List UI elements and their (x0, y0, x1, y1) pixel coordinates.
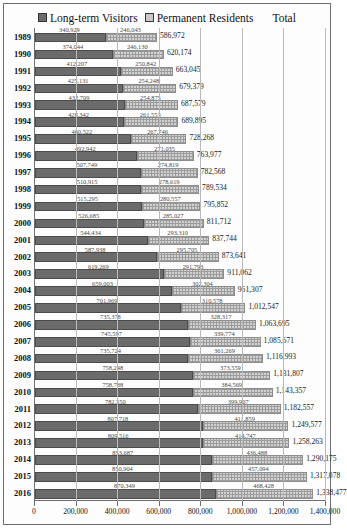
y-axis-category-label: 2014 (4, 454, 31, 464)
stacked-bar (35, 489, 326, 499)
bar-segment-long-term-visitors (35, 371, 193, 381)
bar-segment-long-term-visitors (35, 219, 144, 229)
chart-row: 2015850,904457,0941,317,078 (34, 467, 325, 484)
bar-value-label-permanent-residents: 254,875 (140, 94, 161, 101)
bar-value-label-permanent-residents: 468,428 (253, 482, 274, 489)
chart-row: 2011782,550399,9071,182,557 (34, 400, 325, 417)
bar-segment-long-term-visitors (35, 50, 113, 60)
bar-segment-long-term-visitors (35, 337, 190, 347)
y-axis-category-label: 1998 (4, 184, 31, 194)
bar-segment-long-term-visitors (35, 185, 141, 195)
bar-value-label-permanent-residents: 250,842 (135, 60, 156, 67)
legend-label-total: Total (272, 12, 295, 24)
bar-total-label: 795,852 (203, 200, 228, 209)
bar-value-label-permanent-residents: 328,317 (211, 313, 232, 320)
legend-label-permanent-residents: Permanent Residents (157, 12, 254, 24)
bar-value-label-long-term-visitors: 425,131 (68, 77, 89, 84)
bar-total-label: 663,045 (176, 65, 201, 74)
stacked-bar (35, 151, 326, 161)
bar-value-label-long-term-visitors: 374,044 (62, 43, 83, 50)
bar-segment-permanent-residents (124, 117, 178, 127)
bar-total-label: 1,063,695 (259, 319, 289, 328)
bar-value-label-long-term-visitors: 515,295 (77, 195, 98, 202)
bar-segment-permanent-residents (141, 168, 198, 178)
bar-value-label-long-term-visitors: 758,248 (102, 364, 123, 371)
y-axis-category-label: 2016 (4, 488, 31, 498)
bar-segment-long-term-visitors (35, 455, 212, 465)
x-axis-tick-labels: 0200,000400,000600,000800,0001,000,0001,… (34, 507, 325, 523)
x-axis-tick (76, 501, 77, 506)
bar-segment-permanent-residents (212, 455, 303, 465)
bar-segment-long-term-visitors (35, 388, 193, 398)
stacked-bar (35, 472, 326, 482)
bar-value-label-long-term-visitors: 492,942 (75, 145, 96, 152)
y-axis-category-label: 2010 (4, 387, 31, 397)
y-axis-category-label: 2005 (4, 302, 31, 312)
bar-total-label: 782,568 (201, 167, 226, 176)
chart-row: 2005701,969310,5781,012,547 (34, 298, 325, 315)
bar-value-label-permanent-residents: 310,578 (202, 297, 223, 304)
bar-total-label: 1,182,557 (284, 403, 314, 412)
chart-frame: Long-term Visitors Permanent Residents T… (3, 3, 331, 525)
chart-row: 2003619,269291,793911,062 (34, 265, 325, 282)
chart-row: 2012807,718411,8591,249,577 (34, 417, 325, 434)
bar-value-label-long-term-visitors: 428,342 (68, 111, 89, 118)
bar-segment-permanent-residents (121, 67, 173, 77)
x-axis-tick-label: 600,000 (146, 507, 171, 516)
bar-value-label-long-term-visitors: 782,550 (105, 398, 126, 405)
grid-line (117, 28, 118, 501)
bar-segment-permanent-residents (188, 320, 256, 330)
bar-segment-long-term-visitors (35, 236, 148, 246)
bar-segment-permanent-residents (216, 489, 313, 499)
bar-segment-long-term-visitors (35, 269, 164, 279)
y-axis-category-label: 2006 (4, 319, 31, 329)
bar-total-label: 687,579 (181, 99, 206, 108)
x-axis-tick-label: 1,000,000 (227, 507, 257, 516)
bar-value-label-permanent-residents: 399,907 (228, 398, 249, 405)
bar-value-label-permanent-residents: 261,553 (140, 111, 161, 118)
bar-value-label-permanent-residents: 411,859 (234, 415, 255, 422)
bar-value-label-permanent-residents: 457,094 (248, 465, 269, 472)
bar-total-label: 689,895 (181, 116, 206, 125)
bar-value-label-long-term-visitors: 510,915 (77, 178, 98, 185)
y-axis-category-label: 2002 (4, 252, 31, 262)
stacked-bar (35, 185, 326, 195)
legend-swatch-long-term-visitors (38, 13, 47, 22)
y-axis-category-label: 1990 (4, 49, 31, 59)
stacked-bar (35, 286, 326, 296)
x-axis-tick (117, 501, 118, 506)
bar-value-label-permanent-residents: 302,304 (192, 280, 213, 287)
bar-segment-permanent-residents (203, 421, 289, 431)
y-axis-category-label: 1997 (4, 167, 31, 177)
grid-line (159, 28, 160, 501)
bar-segment-long-term-visitors (35, 117, 124, 127)
bar-segment-long-term-visitors (35, 202, 142, 212)
y-axis-category-label: 1996 (4, 150, 31, 160)
chart-legend: Long-term Visitors Permanent Residents T… (4, 9, 330, 26)
stacked-bar (35, 134, 326, 144)
bar-value-label-permanent-residents: 278,619 (159, 178, 180, 185)
bar-segment-long-term-visitors (35, 252, 157, 262)
bar-segment-permanent-residents (193, 388, 273, 398)
x-axis-tick (325, 501, 326, 506)
stacked-bar (35, 303, 326, 313)
bar-segment-permanent-residents (172, 286, 235, 296)
bar-value-label-permanent-residents: 267,746 (147, 128, 168, 135)
y-axis-category-label: 2012 (4, 420, 31, 430)
bar-value-label-permanent-residents: 285,027 (163, 212, 184, 219)
chart-row: 2009758,248373,5591,131,807 (34, 366, 325, 383)
chart-container: Long-term Visitors Permanent Residents T… (4, 4, 330, 524)
bar-segment-permanent-residents (188, 354, 263, 364)
stacked-bar (35, 438, 326, 448)
chart-row: 2010758,788384,5691,143,357 (34, 383, 325, 400)
y-axis-category-label: 2011 (4, 404, 31, 414)
y-axis-category-label: 2007 (4, 336, 31, 346)
bar-rows: 1989340,929246,043586,9721990374,044246,… (34, 28, 325, 501)
legend-item-permanent-residents: Permanent Residents (145, 12, 254, 24)
bar-total-label: 1,116,993 (266, 352, 296, 361)
stacked-bar (35, 455, 326, 465)
bar-value-label-permanent-residents: 361,269 (214, 347, 235, 354)
bar-segment-permanent-residents (137, 151, 193, 161)
grid-line (325, 28, 326, 501)
grid-line (200, 28, 201, 501)
